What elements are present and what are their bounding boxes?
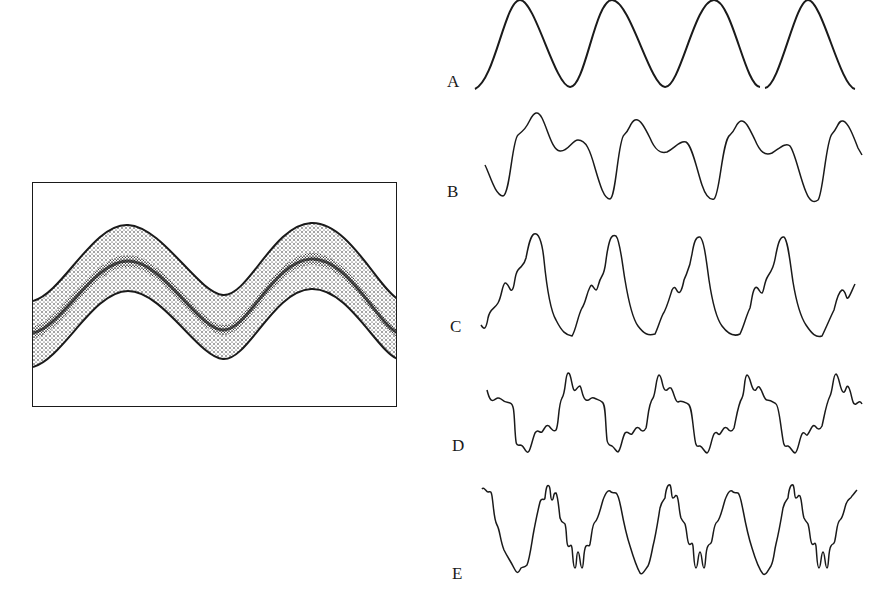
waveform-stack [0, 0, 890, 614]
label-d: D [452, 437, 464, 454]
waveform-a [475, 0, 855, 89]
waveform-e [482, 485, 857, 575]
label-a: A [447, 73, 459, 90]
label-e: E [452, 565, 462, 582]
waveform-b [485, 113, 862, 202]
label-c: C [450, 318, 461, 335]
waveform-c [481, 234, 855, 337]
waveform-d [487, 373, 862, 453]
label-b: B [447, 183, 458, 200]
